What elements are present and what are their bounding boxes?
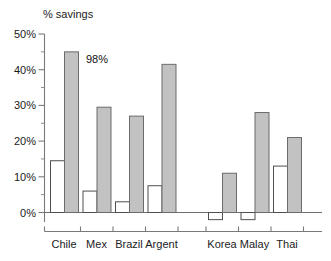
y-axis-title: % savings [43, 8, 94, 20]
x-axis-ticks [45, 227, 304, 232]
bar-open-malay [241, 213, 255, 220]
bar-filled-chile [65, 52, 79, 213]
x-axis-tick-labels: ChileMexBrazilArgentKoreaMalayThai [51, 238, 297, 250]
bar-filled-mex [97, 107, 111, 212]
bar-open-korea [209, 213, 223, 220]
y-axis-ticks [39, 34, 45, 213]
bar-value-annotation: 98% [86, 53, 108, 65]
x-tick-label-brazil: Brazil [115, 238, 143, 250]
bar-filled-brazil [130, 116, 144, 212]
bar-filled-malay [255, 113, 269, 213]
savings-bar-chart: % savings 0%10%20%30%40%50% 98% ChileMex… [0, 0, 331, 261]
y-tick-label: 10% [14, 171, 36, 183]
x-tick-label-argent: Argent [145, 238, 177, 250]
x-tick-label-thai: Thai [276, 238, 297, 250]
y-axis-tick-labels: 0%10%20%30%40%50% [14, 28, 36, 219]
annotations-group: 98% [86, 53, 108, 65]
x-tick-label-korea: Korea [207, 238, 237, 250]
bar-filled-argent [162, 64, 176, 212]
y-tick-label: 20% [14, 135, 36, 147]
x-tick-label-mex: Mex [86, 238, 107, 250]
y-tick-label: 30% [14, 99, 36, 111]
bars-group [51, 52, 302, 220]
axis-title-group: % savings [43, 8, 94, 20]
bar-open-chile [51, 161, 65, 213]
y-tick-label: 40% [14, 64, 36, 76]
y-tick-label: 0% [20, 207, 36, 219]
bar-open-mex [83, 191, 97, 212]
bar-open-argent [148, 186, 162, 213]
bar-open-thai [274, 166, 288, 212]
bar-filled-korea [223, 173, 237, 212]
chart-container: % savings 0%10%20%30%40%50% 98% ChileMex… [0, 0, 331, 261]
x-tick-label-chile: Chile [51, 238, 76, 250]
x-tick-label-malay: Malay [240, 238, 270, 250]
y-tick-label: 50% [14, 28, 36, 40]
bar-filled-thai [288, 138, 302, 213]
bar-open-brazil [116, 202, 130, 213]
